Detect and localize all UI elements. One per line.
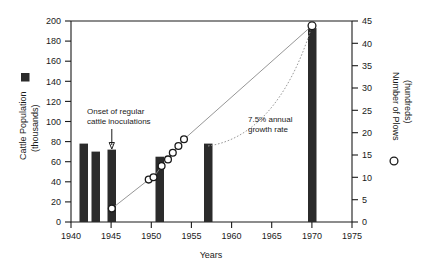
cattle-population-legend-square [21,73,30,82]
right-tick-30: 30 [362,83,372,93]
marker-1970 [308,22,316,30]
x-tick-1960: 1960 [222,231,242,241]
right-tick-5: 5 [362,195,367,205]
bar-1942 [80,144,89,222]
right-tick-45: 45 [362,16,372,26]
right-axis-title: Number of Plows (hundreds) [390,72,413,165]
right-axis-title-line1: Number of Plows [391,72,401,141]
x-tick-1945: 1945 [101,231,121,241]
bar-1957 [204,144,213,222]
bar-1943 [92,152,101,222]
marker-1954 [181,136,188,143]
onset-annotation-line2: cattle inoculations [87,117,151,126]
x-tick-1950: 1950 [141,231,161,241]
growth-rate-annotation-line2: growth rate [248,125,289,134]
right-tick-25: 25 [362,106,372,116]
growth-rate-annotation: 7.5% annual growth rate [248,115,293,134]
x-tick-1940: 1940 [61,231,81,241]
right-tick-0: 0 [362,217,367,227]
left-axis-title: Cattle Population (thousands) [18,73,40,160]
x-axis-title: Years [200,250,223,260]
marker-1952-6 [169,149,176,156]
marker-1952 [165,156,172,163]
left-tick-0: 0 [56,217,61,227]
plows-legend-circle [390,157,398,165]
x-axis-ticks [71,222,352,228]
left-tick-80: 80 [51,137,61,147]
left-tick-200: 200 [46,16,61,26]
left-tick-60: 60 [51,157,61,167]
x-tick-1970: 1970 [302,231,322,241]
right-tick-10: 10 [362,173,372,183]
marker-1953-3 [175,143,182,150]
chart-svg: 200 180 160 140 120 100 80 60 40 20 0 [0,0,421,268]
left-tick-160: 160 [46,56,61,66]
onset-annotation-line1: Onset of regular [87,107,145,116]
x-tick-1965: 1965 [262,231,282,241]
marker-1951-2 [158,163,165,170]
right-tick-40: 40 [362,39,372,49]
bar-1970 [308,28,317,222]
left-axis-ticks [65,21,71,222]
x-tick-1955: 1955 [181,231,201,241]
left-tick-40: 40 [51,177,61,187]
x-tick-1975: 1975 [342,231,362,241]
right-axis-title-line2: (hundreds) [403,80,413,124]
right-axis-ticklabels: 45 40 35 30 25 20 15 10 5 0 [362,16,372,227]
left-axis-ticklabels: 200 180 160 140 120 100 80 60 40 20 0 [46,16,61,227]
left-tick-100: 100 [46,117,61,127]
growth-rate-annotation-line1: 7.5% annual [248,115,293,124]
marker-1945 [108,205,115,212]
left-axis-title-line1: Cattle Population [18,91,28,160]
chart-figure: 200 180 160 140 120 100 80 60 40 20 0 [0,0,421,268]
onset-annotation: Onset of regular cattle inoculations [87,107,151,149]
right-axis-ticks [352,21,358,222]
left-tick-140: 140 [46,77,61,87]
right-tick-35: 35 [362,61,372,71]
left-axis-title-line2: (thousands) [30,104,40,152]
marker-1950-2 [150,174,157,181]
left-tick-20: 20 [51,197,61,207]
right-tick-20: 20 [362,128,372,138]
left-tick-180: 180 [46,36,61,46]
left-tick-120: 120 [46,97,61,107]
x-axis-ticklabels: 1940 1945 1950 1955 1960 1965 1970 1975 [61,231,362,241]
right-tick-15: 15 [362,150,372,160]
